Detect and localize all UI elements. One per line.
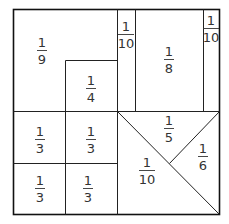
numerator: 1 (36, 124, 44, 139)
fraction-diagram: 191411018110131313131516110 (0, 0, 229, 224)
fraction-label: 13 (35, 124, 45, 156)
fraction-label: 110 (203, 13, 220, 45)
fraction-label: 110 (118, 19, 135, 51)
denominator: 5 (165, 130, 173, 145)
denominator: 3 (84, 190, 92, 205)
fraction-label: 13 (86, 124, 96, 156)
numerator: 1 (199, 141, 207, 156)
denominator: 3 (87, 141, 95, 156)
denominator: 9 (38, 52, 46, 67)
fraction-label: 13 (35, 173, 45, 205)
fraction-label: 15 (164, 113, 174, 145)
denominator: 3 (36, 141, 44, 156)
denominator: 8 (165, 61, 173, 76)
fraction-label: 110 (139, 155, 156, 187)
fraction-label: 13 (83, 173, 93, 205)
diagonal (170, 112, 220, 164)
denominator: 4 (87, 90, 95, 105)
denominator: 6 (199, 158, 207, 173)
numerator: 1 (38, 35, 46, 50)
denominator: 10 (139, 172, 156, 187)
denominator: 10 (203, 30, 220, 45)
numerator: 1 (143, 155, 151, 170)
numerator: 1 (87, 73, 95, 88)
fraction-label: 16 (198, 141, 208, 173)
denominator: 3 (36, 190, 44, 205)
fraction-label: 14 (86, 73, 96, 105)
numerator: 1 (84, 173, 92, 188)
numerator: 1 (207, 13, 215, 28)
denominator: 10 (118, 36, 135, 51)
fraction-label: 18 (164, 44, 174, 76)
fraction-label: 19 (37, 35, 47, 67)
numerator: 1 (165, 113, 173, 128)
numerator: 1 (87, 124, 95, 139)
numerator: 1 (36, 173, 44, 188)
numerator: 1 (165, 44, 173, 59)
numerator: 1 (122, 19, 130, 34)
